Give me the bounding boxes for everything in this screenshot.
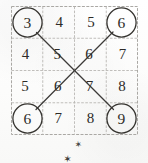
grid-cell-r3c4: 8 (106, 71, 138, 103)
grid-cell-r3c1: 5 (9, 71, 41, 103)
ink-smudge-lower: ✶ (62, 154, 71, 163)
number-grid-figure: 3 4 5 6 4 5 6 7 5 6 7 8 6 7 8 9 (11, 6, 138, 135)
grid-cell-r2c1: 4 (10, 38, 42, 70)
ink-smudge-upper: ✶ (74, 139, 83, 149)
grid-cell-r2c4: 7 (107, 38, 139, 70)
scanned-figure-canvas: 3 4 5 6 4 5 6 7 5 6 7 8 6 7 8 9 ✶ ✶ (0, 0, 148, 163)
grid-cell-r1c3: 5 (75, 6, 107, 38)
grid-cell-r1c1: 3 (12, 6, 44, 38)
grid-cell-r3c2: 6 (42, 71, 74, 103)
grid-cell-r2c2: 5 (41, 38, 73, 70)
grid-cell-r1c4: 6 (106, 6, 138, 38)
grid-cell-r2c3: 6 (73, 38, 105, 70)
grid-cell-r1c2: 4 (43, 6, 75, 38)
grid-cell-r4c2: 7 (42, 102, 74, 134)
grid-cell-r4c4: 9 (106, 102, 138, 134)
grid-cell-r3c3: 7 (74, 71, 106, 103)
grid-cell-r4c3: 8 (75, 102, 107, 134)
grid-cell-r4c1: 6 (12, 102, 44, 134)
